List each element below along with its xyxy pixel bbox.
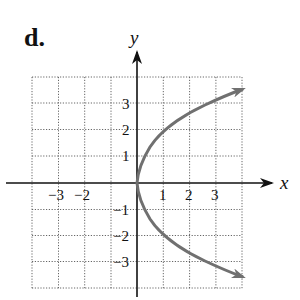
y-tick-label: 1 [122, 148, 130, 164]
x-tick-label: 1 [159, 187, 167, 203]
x-tick-label: 2 [185, 187, 193, 203]
panel-label: d. [24, 23, 45, 52]
y-tick-label: 3 [122, 96, 130, 112]
x-tick-label: −2 [74, 187, 90, 203]
x-axis-label: x [279, 172, 289, 193]
x-tick-label: −3 [48, 187, 64, 203]
y-tick-label: 2 [122, 122, 130, 138]
y-tick-label: −2 [113, 228, 129, 244]
y-tick-label: −1 [113, 202, 129, 218]
y-tick-label: −3 [113, 254, 129, 270]
graph: d. x y −3 −2 1 2 3 3 2 1 −1 −2 −3 [0, 0, 300, 300]
x-tick-label: 3 [211, 187, 219, 203]
y-axis-label: y [128, 27, 139, 48]
